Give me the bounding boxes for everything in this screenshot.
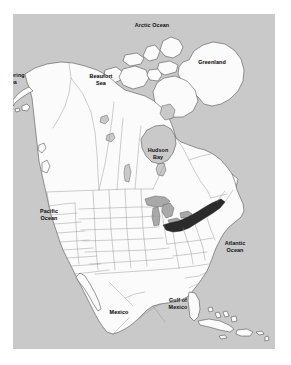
north-america-reference-map: Arctic Ocean Greenland Beaufort Sea Beri… bbox=[0, 0, 291, 365]
map-canvas: Arctic Ocean Greenland Beaufort Sea Beri… bbox=[13, 14, 275, 349]
water-lake-michigan bbox=[152, 207, 160, 226]
map-graphic bbox=[13, 14, 275, 349]
island-bahamas-d bbox=[231, 316, 237, 322]
island-bahamas-a bbox=[208, 307, 213, 312]
island-aleutian-a bbox=[15, 108, 20, 112]
island-lesser-antilles bbox=[265, 336, 269, 341]
